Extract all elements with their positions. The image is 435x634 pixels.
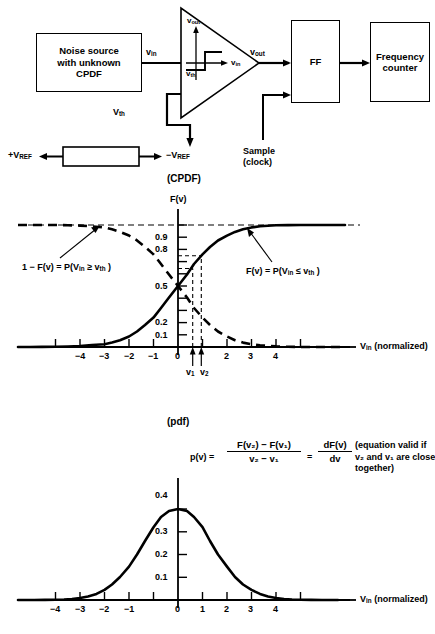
pdf-ytick-0.3: 0.3 bbox=[155, 526, 168, 536]
pdf-xtick-1: 1 bbox=[200, 604, 205, 614]
pdf-ytick-0.4: 0.4 bbox=[155, 490, 168, 500]
pdf-xtick-2: 2 bbox=[224, 604, 229, 614]
pdf-xtick--4: −4 bbox=[50, 604, 60, 614]
pdf-y-ticks bbox=[178, 509, 187, 577]
pdf-xtick-4: 4 bbox=[273, 604, 278, 614]
pdf-ytick-0.1: 0.1 bbox=[155, 572, 168, 582]
pdf-ytick-0.2: 0.2 bbox=[155, 549, 168, 559]
pdf-xtick--1: −1 bbox=[124, 604, 134, 614]
pdf-xtick-3: 3 bbox=[248, 604, 253, 614]
pdf-xtick--2: −2 bbox=[99, 604, 109, 614]
pdf-xtick--3: −3 bbox=[75, 604, 85, 614]
pdf-x-axis-label: Vin (normalized) bbox=[360, 594, 428, 606]
pdf-xtick-0: 0 bbox=[175, 604, 180, 614]
